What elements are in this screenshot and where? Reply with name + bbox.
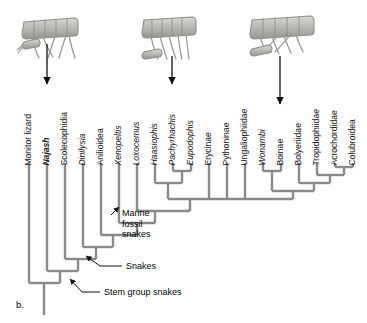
- taxon-label-ungaliophiidae: Ungaliophiidae: [240, 109, 249, 166]
- taxon-label-xenopeltis: Xenopeltis: [114, 125, 123, 165]
- annotation-snakes: Snakes: [126, 261, 156, 272]
- annotation-marine-fossil-snakes: Marine fossil snakes: [122, 208, 151, 240]
- taxon-label-monitor-lizard: Monitor lizard: [24, 114, 33, 166]
- vertebrae-specimen-boinae: [250, 16, 314, 56]
- panel-label-b: b.: [16, 299, 24, 310]
- taxon-label-najash: Najash: [42, 137, 51, 165]
- taxon-label-pythoninae: Pythoninae: [222, 123, 231, 166]
- taxon-label-haasiophis: Haasiophis: [150, 123, 159, 166]
- annotation-marine-line-1: Marine: [122, 208, 151, 219]
- taxon-label-acrochordidae: Acrochordidae: [330, 110, 339, 165]
- annotation-stem-group-snakes: Stem group snakes: [104, 287, 182, 298]
- taxon-label-eupodophis: Eupodophis: [186, 120, 195, 165]
- taxon-label-colubroidea: Colubroidea: [348, 119, 357, 165]
- stem-group-snakes-leader: [70, 279, 82, 292]
- taxon-label-loxocemus: Loxocemus: [132, 122, 141, 166]
- taxon-label-anilioidea: Anilioidea: [96, 128, 105, 165]
- taxon-label-boinae: Boinae: [276, 139, 285, 166]
- annotation-marine-line-2: fossil: [122, 219, 151, 230]
- taxon-label-pachyrhachis: Pachyrhachis: [168, 114, 177, 166]
- taxon-label-wonambi: Wonambi: [258, 129, 267, 165]
- vertebrae-specimen-pachyrhachis: [142, 17, 196, 59]
- taxon-label-tropidophiidae: Tropidophiidae: [312, 109, 321, 166]
- annotation-marine-line-3: snakes: [122, 229, 151, 240]
- taxon-label-dinilysia: Dinilysia: [78, 134, 87, 166]
- taxon-label-erycinae: Erycinae: [204, 132, 213, 165]
- cladogram: [29, 163, 353, 315]
- snakes-leader: [86, 256, 100, 266]
- taxon-label-scolecophidia: Scolecophidia: [60, 112, 69, 166]
- taxon-label-bolyeriidae: Bolyeriidae: [294, 123, 303, 166]
